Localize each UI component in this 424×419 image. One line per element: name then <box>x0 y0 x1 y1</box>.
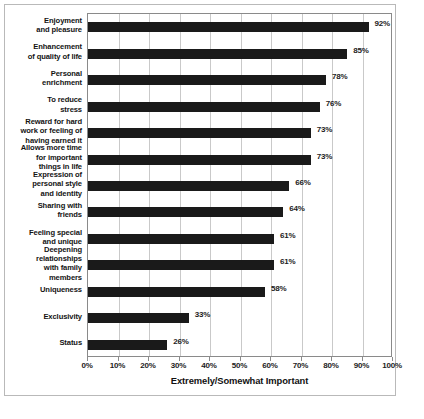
category-label-line: of quality of life <box>0 52 82 61</box>
bar <box>88 313 189 323</box>
category-label: Expression ofpersonal styleand identity <box>0 170 82 198</box>
category-label: Status <box>0 338 82 347</box>
category-label-line: Personal <box>0 69 82 78</box>
bar-row: 92% <box>88 22 391 32</box>
category-label-line: Allows more time <box>0 143 82 152</box>
bar-row: 26% <box>88 340 391 350</box>
category-label-line: members <box>0 273 82 282</box>
bar <box>88 340 167 350</box>
bar-row: 61% <box>88 260 391 270</box>
category-label: Enhancementof quality of life <box>0 42 82 61</box>
bar <box>88 234 274 244</box>
bar <box>88 22 369 32</box>
category-label: Deepeningrelationshipswith familymembers <box>0 245 82 283</box>
bar-value-label: 26% <box>173 337 188 346</box>
category-label: Sharing withfriends <box>0 201 82 220</box>
x-tick-label: 100% <box>372 361 412 370</box>
category-label-line: Expression of <box>0 170 82 179</box>
category-label: To reducestress <box>0 95 82 114</box>
category-label: Uniqueness <box>0 285 82 294</box>
category-label-line: Enhancement <box>0 42 82 51</box>
category-label-line: with family <box>0 263 82 272</box>
bar <box>88 155 311 165</box>
category-label: Feeling specialand unique <box>0 228 82 247</box>
bar-value-label: 61% <box>280 257 295 266</box>
bar-value-label: 64% <box>289 204 304 213</box>
category-label-line: Status <box>0 338 82 347</box>
bar <box>88 128 311 138</box>
bar-value-label: 73% <box>317 125 332 134</box>
category-label-line: personal style <box>0 179 82 188</box>
plot-area: 92%85%78%76%73%73%66%64%61%61%58%33%26% <box>87 13 392 357</box>
bar-row: 33% <box>88 313 391 323</box>
bar-value-label: 85% <box>353 46 368 55</box>
x-axis-title: Extremely/Somewhat Important <box>87 375 392 386</box>
bar <box>88 181 289 191</box>
category-label-line: and pleasure <box>0 25 82 34</box>
bar <box>88 75 326 85</box>
category-label: Enjoymentand pleasure <box>0 16 82 35</box>
category-label-line: enrichment <box>0 78 82 87</box>
category-label: Allows more timefor importantthings in l… <box>0 143 82 171</box>
bar <box>88 102 320 112</box>
category-label: Personalenrichment <box>0 69 82 88</box>
bar-value-label: 92% <box>375 19 390 28</box>
bar-row: 61% <box>88 234 391 244</box>
bar-row: 73% <box>88 128 391 138</box>
category-label-line: Sharing with <box>0 201 82 210</box>
category-label-line: work or feeling of <box>0 126 82 135</box>
bar-value-label: 58% <box>271 284 286 293</box>
bar-row: 73% <box>88 155 391 165</box>
bar-row: 85% <box>88 49 391 59</box>
category-label-line: Enjoyment <box>0 16 82 25</box>
bar-value-label: 73% <box>317 152 332 161</box>
category-label-line: Reward for hard <box>0 117 82 126</box>
bar-value-label: 78% <box>332 72 347 81</box>
category-label-line: and identity <box>0 189 82 198</box>
bar <box>88 49 347 59</box>
category-label-line: relationships <box>0 254 82 263</box>
bar-row: 58% <box>88 287 391 297</box>
bar-value-label: 61% <box>280 231 295 240</box>
category-label-line: Uniqueness <box>0 285 82 294</box>
bar-value-label: 33% <box>195 310 210 319</box>
category-label-line: Feeling special <box>0 228 82 237</box>
bar-value-label: 66% <box>295 178 310 187</box>
category-label-line: To reduce <box>0 95 82 104</box>
category-label: Reward for hardwork or feeling ofhaving … <box>0 117 82 145</box>
bar <box>88 287 265 297</box>
bar-value-label: 76% <box>326 99 341 108</box>
category-label-line: friends <box>0 210 82 219</box>
category-label-line: stress <box>0 105 82 114</box>
category-label-line: Deepening <box>0 245 82 254</box>
bar <box>88 260 274 270</box>
bar-row: 76% <box>88 102 391 112</box>
category-label-line: Exclusivity <box>0 312 82 321</box>
chart-figure: 92%85%78%76%73%73%66%64%61%61%58%33%26% … <box>0 0 424 419</box>
bar-row: 66% <box>88 181 391 191</box>
bar <box>88 207 283 217</box>
category-label-line: for important <box>0 153 82 162</box>
bar-row: 78% <box>88 75 391 85</box>
category-label: Exclusivity <box>0 312 82 321</box>
bar-row: 64% <box>88 207 391 217</box>
